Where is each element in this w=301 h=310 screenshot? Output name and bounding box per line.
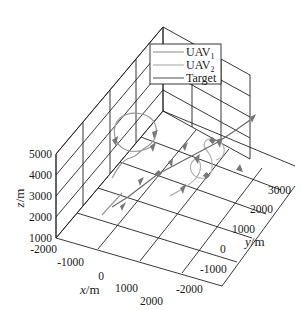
x-axis-label: x/m — [79, 282, 100, 297]
y-tick: -1000 — [200, 263, 227, 275]
z-tick: 2000 — [29, 211, 52, 223]
grid-floor — [56, 111, 295, 286]
legend-label-target: Target — [186, 71, 217, 85]
x-tick: -2000 — [30, 243, 57, 255]
svg-text:y/m: y/m — [243, 234, 265, 249]
y-tick: 0 — [220, 243, 226, 255]
z-tick: 3000 — [29, 190, 52, 202]
y-tick: 3000 — [268, 184, 291, 196]
x-tick: 0 — [98, 270, 104, 282]
chart-3d: UAV1 UAV2 Target 5000 4000 3000 2000 100… — [0, 0, 301, 310]
x-tick: -1000 — [57, 256, 84, 268]
z-axis-ticks: 5000 4000 3000 2000 1000 — [29, 148, 52, 244]
z-axis-label: z/m — [12, 189, 27, 209]
svg-text:z/m: z/m — [12, 189, 27, 209]
series-uav2 — [170, 139, 224, 196]
series-target — [112, 120, 250, 207]
y-tick: -2000 — [176, 283, 203, 295]
y-tick: 2000 — [250, 203, 273, 215]
x-tick: 2000 — [140, 295, 163, 307]
svg-text:x/m: x/m — [79, 282, 100, 297]
z-tick: 4000 — [29, 169, 52, 181]
z-tick: 5000 — [29, 148, 52, 160]
x-tick: 1000 — [115, 282, 138, 294]
x-axis-ticks: -2000 -1000 0 1000 2000 — [30, 243, 163, 307]
legend: UAV1 UAV2 Target — [150, 44, 221, 85]
y-axis-ticks: -2000 -1000 0 1000 2000 3000 — [176, 184, 291, 295]
trajectory-markers — [112, 114, 256, 211]
y-axis-label: y/m — [243, 234, 265, 249]
